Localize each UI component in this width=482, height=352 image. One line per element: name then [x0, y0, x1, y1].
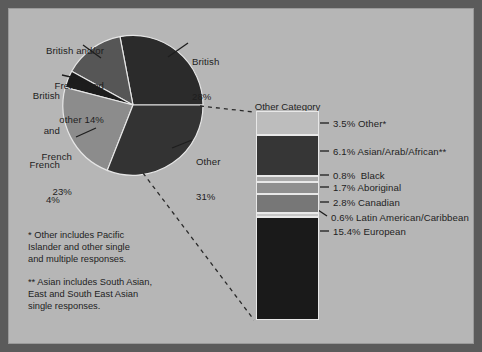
bar-label-european: 15.4% European [333, 226, 406, 238]
pie-label-baf-line1: British [8, 90, 60, 102]
footnote-other: * Other includes Pacific Islander and ot… [28, 230, 130, 265]
bar-label-black: 0.8% Black [333, 170, 385, 182]
stacked-bar-other-category [256, 111, 319, 320]
bar-segment-canadian[interactable] [256, 194, 319, 213]
bar-label-other: 3.5% Other* [333, 118, 386, 130]
bar-label-asian-arab-african: 6.1% Asian/Arab/African** [333, 146, 446, 158]
bar-segment-aboriginal[interactable] [256, 182, 319, 194]
pie-label-british-line1: British [192, 56, 262, 68]
pie-label-french-line2: 23% [8, 186, 72, 198]
pie-label-french-line1: French [8, 151, 72, 163]
callout-tick-latin-american-caribbean [318, 210, 327, 216]
bar-label-canadian: 2.8% Canadian [333, 197, 400, 209]
figure-container: British and/or French and other 14% Brit… [0, 0, 482, 352]
footnote-asian: ** Asian includes South Asian, East and … [28, 277, 152, 312]
pie-label-french: French 23% [8, 128, 72, 220]
bar-label-aboriginal: 1.7% Aboriginal [333, 182, 401, 194]
bar-label-latin-american-caribbean: 0.6% Latin American/Caribbean [331, 212, 469, 224]
pie-slice-british [120, 35, 203, 105]
bar-segment-other[interactable] [256, 111, 319, 135]
pie-label-bfo-line1: British and/or [12, 45, 104, 57]
bar-segment-european[interactable] [256, 217, 319, 320]
bar-segment-asian-arab-african[interactable] [256, 135, 319, 176]
